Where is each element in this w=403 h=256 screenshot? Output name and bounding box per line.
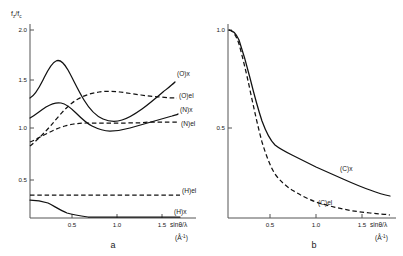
panel-b: 1.0 0.5 0.5 1.0 1.5 sinθ/λ (Å-1) (C)x (C… (216, 24, 396, 250)
panel-a-x-ticklabel-1: 1.0 (113, 221, 122, 228)
panel-a: fz/fc 2.0 1.5 1.0 0.5 0.5 1.0 1.5 sinθ/λ… (11, 10, 197, 250)
panel-a-name: a (110, 240, 115, 250)
panel-a-curve-label-H-el: (H)el (182, 187, 197, 195)
panel-a-x-ticklabel-0: 0.5 (68, 221, 77, 228)
figure-svg: fz/fc 2.0 1.5 1.0 0.5 0.5 1.0 1.5 sinθ/λ… (0, 0, 403, 256)
panel-b-x-ticklabel-1: 1.0 (312, 221, 321, 228)
panel-a-curve-label-N-el: (N)el (181, 120, 196, 128)
scattering-factor-figure: fz/fc 2.0 1.5 1.0 0.5 0.5 1.0 1.5 sinθ/λ… (0, 0, 403, 256)
panel-a-x-ticklabel-2: 1.5 (158, 221, 167, 228)
panel-b-x-axis-unit: (Å-1) (375, 233, 388, 242)
panel-a-x-axis-unit: (Å-1) (175, 233, 188, 242)
panel-b-curve-C-el (229, 30, 390, 215)
panel-a-y-axis-label: fz/fc (11, 10, 22, 19)
panel-a-curve-O-x (30, 60, 175, 121)
panel-b-y-ticklabel-1: 0.5 (216, 124, 225, 131)
panel-a-y-ticklabel-2: 1.0 (18, 124, 27, 131)
panel-a-curve-H-x (30, 200, 180, 217)
panel-b-y-ticklabel-0: 1.0 (216, 26, 225, 33)
panel-b-name: b (311, 240, 316, 250)
panel-a-x-axis-title: sinθ/λ (170, 221, 188, 228)
panel-b-curve-C-x (229, 30, 390, 196)
panel-a-y-ticklabel-0: 2.0 (18, 26, 27, 33)
panel-b-x-axis-title: sinθ/λ (370, 221, 388, 228)
panel-a-curve-N-x (30, 103, 178, 131)
panel-a-curve-label-O-x: (O)x (177, 70, 191, 78)
panel-a-y-ticklabel-3: 0.5 (18, 176, 27, 183)
panel-b-curve-label-C-el: (C)el (318, 199, 333, 207)
panel-a-curve-label-N-x: (N)x (180, 106, 193, 114)
panel-a-y-ticklabel-1: 1.5 (18, 76, 27, 83)
panel-a-curve-label-H-x: (H)x (174, 208, 187, 216)
panel-b-x-ticklabel-2: 1.5 (358, 221, 367, 228)
panel-b-x-ticklabel-0: 0.5 (266, 221, 275, 228)
panel-b-curve-label-C-x: (C)x (340, 165, 353, 173)
panel-a-curve-label-O-el: (O)el (179, 92, 194, 100)
panel-a-curve-N-el (30, 122, 179, 142)
